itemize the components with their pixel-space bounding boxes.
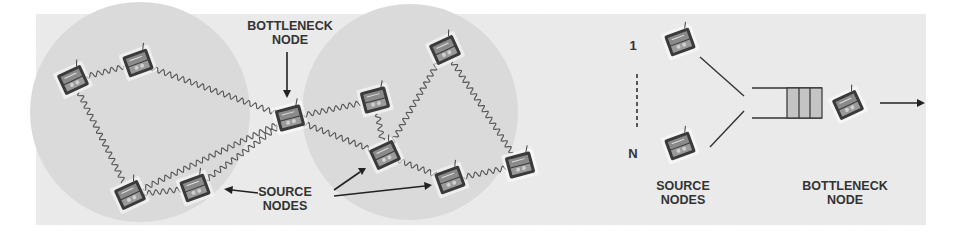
- right-source-label-line1: SOURCE: [656, 179, 709, 193]
- network-diagram: BOTTLENECK NODE SOURCE NODES 1 N SOURCE …: [0, 0, 963, 239]
- source-label-line1: SOURCE: [258, 185, 311, 199]
- source-index-top: 1: [629, 38, 636, 53]
- right-bottleneck-label-line1: BOTTLENECK: [802, 179, 887, 193]
- right-bottleneck-label-line2: NODE: [827, 193, 863, 207]
- source-label-line2: NODES: [263, 199, 307, 213]
- bottleneck-label-line1: BOTTLENECK: [247, 19, 332, 33]
- right-source-label-line2: NODES: [661, 193, 705, 207]
- bottleneck-label-line2: NODE: [272, 33, 308, 47]
- source-index-bottom: N: [628, 146, 637, 161]
